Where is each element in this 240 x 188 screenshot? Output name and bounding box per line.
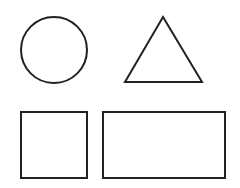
triangle-shape [125, 17, 202, 82]
shapes-svg [0, 0, 240, 188]
square-shape [21, 112, 87, 178]
circle-shape [21, 17, 87, 83]
shapes-canvas [0, 0, 240, 188]
rectangle-shape [103, 112, 225, 178]
